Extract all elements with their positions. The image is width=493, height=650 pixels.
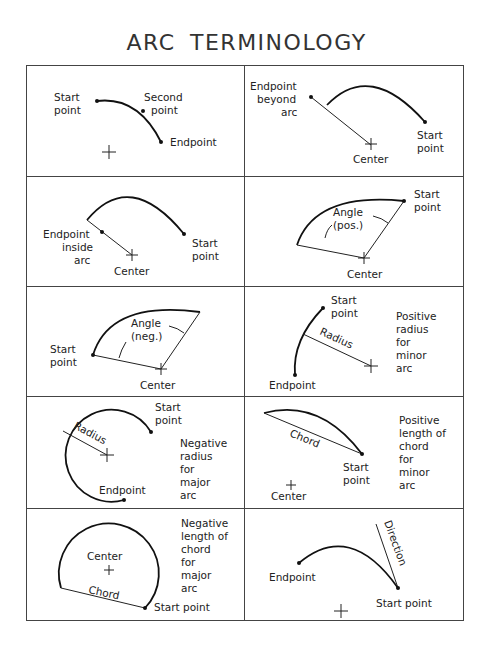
arc-curve [87, 197, 184, 234]
note-6: arc [181, 582, 198, 594]
second-point-marker [141, 109, 145, 113]
note-6: arc [399, 479, 416, 491]
label-start-1: Start [155, 401, 181, 413]
label-endpoint-2: beyond [257, 93, 296, 105]
arc-curve [327, 86, 425, 122]
note-1: Positive [396, 310, 436, 322]
label-angle-1: Angle [131, 317, 161, 329]
label-start-2: point [50, 356, 77, 368]
panel-chord-negative: Center Chord Start point Negative length… [59, 517, 228, 613]
label-start-2: point [343, 474, 370, 486]
label-radius: Radius [318, 325, 355, 351]
panel-radius-positive: Start point Radius Endpoint Positive rad… [269, 294, 436, 391]
endpoint-ray [311, 97, 371, 145]
label-start-2: point [54, 104, 81, 116]
center-cross-icon [104, 565, 114, 575]
note-4: major [180, 476, 211, 488]
radius-line-end [161, 312, 200, 369]
panel-endpoint-beyond: Endpoint beyond arc Start point Center [250, 80, 444, 165]
label-start-1: Start [343, 461, 369, 473]
label-start-1: Start [50, 343, 76, 355]
label-angle-2: (neg.) [131, 330, 162, 342]
note-4: for [181, 556, 196, 568]
note-5: minor [399, 466, 430, 478]
start-point-marker [360, 452, 364, 456]
start-point-marker [182, 232, 186, 236]
center-cross-icon [102, 145, 116, 159]
endpoint-marker [309, 95, 313, 99]
label-endpoint-1: Endpoint [250, 80, 297, 92]
note-5: major [181, 569, 212, 581]
endpoint-marker [100, 230, 104, 234]
label-second-2: point [151, 104, 178, 116]
note-4: minor [396, 349, 427, 361]
label-endpoint: Endpoint [269, 379, 316, 391]
endpoint-ray [87, 220, 132, 255]
center-cross-icon [155, 363, 167, 375]
label-center: Center [347, 268, 383, 280]
panel-three-point: Start point Second point Endpoint [54, 91, 217, 159]
note-3: chord [399, 440, 429, 452]
center-cross-icon [365, 138, 377, 150]
label-start: Start point [376, 597, 432, 609]
label-center: Center [353, 153, 389, 165]
note-2: radius [180, 450, 212, 462]
start-point-marker [91, 353, 95, 357]
label-start-2: point [192, 250, 219, 262]
start-point-marker [321, 306, 325, 310]
start-point-marker [95, 99, 99, 103]
label-endpoint-3: arc [281, 106, 298, 118]
label-endpoint-2: inside [62, 241, 93, 253]
note-5: arc [396, 362, 413, 374]
center-cross-icon [100, 448, 114, 462]
panel-angle-negative: Angle (neg.) Start point Center [50, 310, 200, 391]
panel-endpoint-inside: Endpoint inside arc Start point Center [43, 197, 219, 277]
note-3: for [180, 463, 195, 475]
label-start-2: point [331, 307, 358, 319]
note-2: radius [396, 323, 428, 335]
radius-line-start [93, 355, 161, 369]
arc-diagrams: Start point Second point Endpoint Endpoi… [0, 0, 493, 650]
note-2: length of [181, 530, 228, 542]
label-endpoint: Endpoint [269, 571, 316, 583]
label-radius: Radius [72, 419, 109, 446]
start-point-marker [423, 120, 427, 124]
angle-arrow [325, 225, 332, 238]
label-center: Center [114, 265, 150, 277]
center-cross-icon [126, 249, 138, 261]
radius-line-start [364, 201, 404, 258]
endpoint-marker [293, 373, 297, 377]
note-1: Negative [180, 437, 227, 449]
panel-chord-positive: Chord Start point Center Positive length… [264, 410, 446, 502]
note-4: for [399, 453, 414, 465]
label-start-1: Start [54, 91, 80, 103]
endpoint-marker [159, 140, 163, 144]
note-1: Negative [181, 517, 228, 529]
endpoint-marker [297, 561, 301, 565]
center-cross-icon [364, 359, 378, 373]
panel-angle-positive: Angle (pos.) Start point Center [297, 188, 441, 280]
label-start-2: point [417, 142, 444, 154]
label-endpoint: Endpoint [99, 484, 146, 496]
label-endpoint-1: Endpoint [43, 228, 90, 240]
label-start-1: Start [331, 294, 357, 306]
label-center: Center [87, 550, 123, 562]
label-start-1: Start [414, 188, 440, 200]
center-cross-icon [334, 604, 348, 618]
start-point-marker [149, 430, 153, 434]
panel-direction: Direction Endpoint Start point [269, 519, 432, 618]
note-3: chord [181, 543, 211, 555]
label-start-2: point [155, 414, 182, 426]
label-start: Start point [154, 601, 210, 613]
label-direction: Direction [382, 519, 410, 568]
panel-radius-negative: Start point Radius Endpoint Negative rad… [63, 401, 227, 502]
label-angle-1: Angle [333, 206, 363, 218]
note-2: length of [399, 427, 446, 439]
label-start-1: Start [192, 237, 218, 249]
label-endpoint-3: arc [74, 254, 91, 266]
label-start-1: Start [417, 129, 443, 141]
label-start-2: point [414, 201, 441, 213]
label-center: Center [271, 490, 307, 502]
radius-line-end [297, 245, 364, 258]
endpoint-marker [122, 498, 126, 502]
